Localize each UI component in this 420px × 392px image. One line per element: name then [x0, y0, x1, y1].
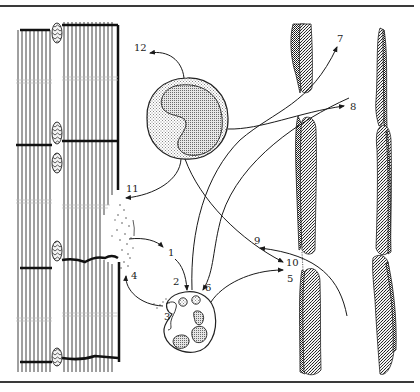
phagocyte-cell [153, 292, 215, 353]
arrow-12 [150, 52, 184, 78]
z-discs [16, 25, 118, 362]
label-4: 4 [131, 270, 137, 281]
label-8: 8 [350, 101, 356, 112]
endothelial-cell [300, 117, 316, 254]
granule [179, 298, 187, 306]
muscle-fiber-right [64, 22, 112, 372]
nucleus-lobe [194, 311, 204, 325]
arrow-10 [185, 159, 283, 262]
granule [192, 296, 200, 304]
label-5: 5 [287, 273, 293, 284]
debris-fragment [133, 220, 134, 236]
label-7: 7 [337, 33, 343, 44]
label-1: 1 [168, 247, 174, 258]
satellite-nuclei [52, 23, 62, 366]
diagram-canvas: 12 11 1 2 3 4 5 6 7 8 9 10 [0, 0, 420, 392]
label-3: 3 [164, 311, 170, 322]
arrow-5 [211, 270, 283, 302]
nucleus-lobe [173, 335, 189, 348]
label-11: 11 [126, 183, 139, 194]
nucleus-lobe [192, 326, 207, 342]
arrow-1 [129, 238, 163, 247]
endothelial-cell [373, 255, 395, 374]
label-6: 6 [205, 282, 211, 293]
label-2: 2 [173, 276, 179, 287]
m-lines [16, 77, 118, 321]
monocyte-cell [147, 78, 228, 159]
label-10: 10 [286, 257, 299, 268]
muscle-fibers [16, 22, 134, 372]
endothelial-cell [299, 24, 312, 93]
vessel-walls [291, 24, 396, 375]
muscle-debris [111, 204, 133, 269]
label-9: 9 [254, 235, 260, 246]
endothelial-cell [303, 269, 321, 375]
label-12: 12 [134, 42, 147, 53]
